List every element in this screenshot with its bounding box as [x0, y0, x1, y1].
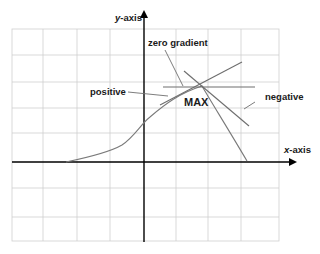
function-curve [66, 86, 247, 162]
negative-label: negative [265, 91, 304, 102]
zero-gradient-label: zero gradient [148, 37, 208, 48]
gradient-diagram: y-axis x-axis zero gradient positive neg… [0, 0, 320, 254]
axes [12, 16, 291, 242]
x-axis-label: x-axis [283, 144, 311, 155]
positive-leader [128, 92, 168, 96]
max-label: MAX [184, 96, 209, 108]
positive-label: positive [90, 86, 126, 97]
y-axis-label: y-axis [114, 12, 142, 23]
grid [12, 29, 279, 241]
x-axis-arrow-icon [289, 158, 297, 166]
zero-gradient-leader [165, 50, 183, 86]
